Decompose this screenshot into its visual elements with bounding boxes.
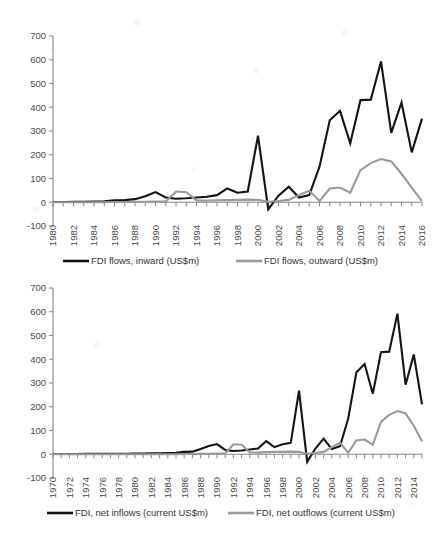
x-tick-label: 2004 bbox=[293, 225, 304, 246]
legend-label: FDI flows, outward (US$m) bbox=[264, 255, 378, 266]
x-tick-label: 2000 bbox=[252, 225, 263, 246]
y-tick-label: 300 bbox=[30, 125, 46, 136]
x-tick-label: 2008 bbox=[359, 477, 370, 498]
x-tick-label: 2006 bbox=[314, 225, 325, 246]
y-tick-label: 400 bbox=[30, 354, 46, 365]
x-tick-label: 1974 bbox=[80, 477, 91, 498]
x-tick-label: 1980 bbox=[129, 477, 140, 498]
x-tick-label: 2014 bbox=[408, 477, 419, 498]
x-tick-label: 1986 bbox=[109, 225, 120, 246]
x-tick-label: 1982 bbox=[146, 477, 157, 498]
chart-top-svg: 7006005004003002001000-10019801982198419… bbox=[0, 0, 442, 280]
y-tick-label: 100 bbox=[30, 173, 46, 184]
series-line-outward bbox=[53, 411, 422, 454]
x-tick-label: 1998 bbox=[277, 477, 288, 498]
y-tick-label: 0 bbox=[41, 449, 46, 460]
x-tick-label: 1982 bbox=[68, 225, 79, 246]
x-tick-label: 1996 bbox=[211, 225, 222, 246]
y-tick-label: 200 bbox=[30, 149, 46, 160]
x-tick-label: 2010 bbox=[355, 225, 366, 246]
y-tick-label: 600 bbox=[30, 306, 46, 317]
x-tick-label: 1990 bbox=[150, 225, 161, 246]
chart-fdi-net-inflows-outflows: 7006005004003002001000-10019701972197419… bbox=[0, 280, 442, 548]
x-tick-label: 1992 bbox=[228, 477, 239, 498]
x-tick-label: 2002 bbox=[310, 477, 321, 498]
x-tick-label: 2000 bbox=[293, 477, 304, 498]
legend-label: FDI, net inflows (current US$m) bbox=[75, 507, 208, 518]
y-tick-label: 0 bbox=[41, 197, 46, 208]
x-tick-label: 1998 bbox=[232, 225, 243, 246]
x-tick-label: 1976 bbox=[97, 477, 108, 498]
y-tick-label: 600 bbox=[30, 54, 46, 65]
legend-label: FDI, net outflows (current US$m) bbox=[256, 507, 395, 518]
y-tick-label: 200 bbox=[30, 401, 46, 412]
y-tick-label: 700 bbox=[30, 30, 46, 41]
x-tick-label: 1978 bbox=[113, 477, 124, 498]
x-tick-label: 1988 bbox=[195, 477, 206, 498]
x-tick-label: 1996 bbox=[261, 477, 272, 498]
y-tick-label: -100 bbox=[27, 472, 46, 483]
x-tick-label: 2010 bbox=[375, 477, 386, 498]
y-tick-label: 700 bbox=[30, 282, 46, 293]
x-tick-label: 1988 bbox=[129, 225, 140, 246]
y-tick-label: 300 bbox=[30, 377, 46, 388]
y-tick-label: 500 bbox=[30, 78, 46, 89]
x-tick-label: 2006 bbox=[343, 477, 354, 498]
x-tick-label: 1994 bbox=[244, 477, 255, 498]
x-tick-label: 2008 bbox=[334, 225, 345, 246]
x-tick-label: 1994 bbox=[191, 225, 202, 246]
x-tick-label: 1990 bbox=[211, 477, 222, 498]
x-tick-label: 1986 bbox=[179, 477, 190, 498]
y-tick-label: -100 bbox=[27, 220, 46, 231]
x-tick-label: 1984 bbox=[88, 225, 99, 246]
x-tick-label: 1980 bbox=[47, 225, 58, 246]
legend-label: FDI flows, inward (US$m) bbox=[91, 255, 199, 266]
series-line-outward bbox=[53, 159, 422, 202]
x-tick-label: 1970 bbox=[47, 477, 58, 498]
x-tick-label: 2012 bbox=[392, 477, 403, 498]
x-tick-label: 2014 bbox=[396, 225, 407, 246]
series-line-inward bbox=[53, 61, 422, 209]
y-tick-label: 500 bbox=[30, 330, 46, 341]
y-tick-label: 100 bbox=[30, 425, 46, 436]
x-tick-label: 2004 bbox=[326, 477, 337, 498]
x-tick-label: 2012 bbox=[375, 225, 386, 246]
x-tick-label: 1984 bbox=[162, 477, 173, 498]
chart-fdi-flows-inward-outward: 7006005004003002001000-10019801982198419… bbox=[0, 0, 442, 280]
x-tick-label: 2002 bbox=[273, 225, 284, 246]
x-tick-label: 1972 bbox=[64, 477, 75, 498]
y-tick-label: 400 bbox=[30, 102, 46, 113]
x-tick-label: 1992 bbox=[170, 225, 181, 246]
chart-bottom-svg: 7006005004003002001000-10019701972197419… bbox=[0, 280, 442, 548]
x-tick-label: 2016 bbox=[416, 225, 427, 246]
